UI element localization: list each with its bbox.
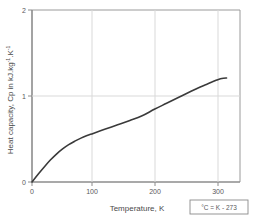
chart-figure: 0 100 200 300 0 1 2 Temperature, K Heat … — [0, 0, 253, 222]
ytick-label-2: 2 — [22, 7, 26, 14]
xtick-label-200: 200 — [149, 188, 161, 195]
conversion-note-text: °C = K - 273 — [201, 204, 237, 211]
ytick-label-1: 1 — [22, 93, 26, 100]
heat-capacity-vs-temperature-chart: 0 100 200 300 0 1 2 Temperature, K Heat … — [0, 0, 253, 222]
x-axis-title: Temperature, K — [110, 204, 165, 213]
xtick-label-100: 100 — [86, 188, 98, 195]
ytick-label-0: 0 — [22, 179, 26, 186]
xtick-label-300: 300 — [212, 188, 224, 195]
y-axis-title-main: Heat capacity, Cp in kJ.kg — [6, 62, 15, 154]
y-axis-title-exp2: -1 — [5, 46, 11, 51]
conversion-note: °C = K - 273 — [190, 200, 248, 214]
xtick-label-0: 0 — [30, 188, 34, 195]
